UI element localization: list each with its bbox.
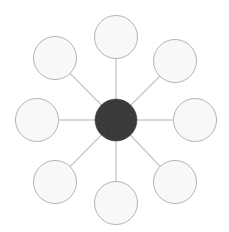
node-sw[interactable] [34, 161, 77, 204]
diagram-canvas [0, 0, 229, 232]
node-se[interactable] [154, 161, 197, 204]
node-nw[interactable] [34, 37, 77, 80]
node-e[interactable] [174, 99, 217, 142]
node-ne[interactable] [154, 40, 197, 83]
hub-layer [95, 99, 137, 141]
node-w[interactable] [16, 99, 59, 142]
hub-node[interactable] [95, 99, 137, 141]
radial-node-diagram [0, 0, 229, 232]
node-s[interactable] [95, 182, 138, 225]
node-n[interactable] [95, 16, 138, 59]
